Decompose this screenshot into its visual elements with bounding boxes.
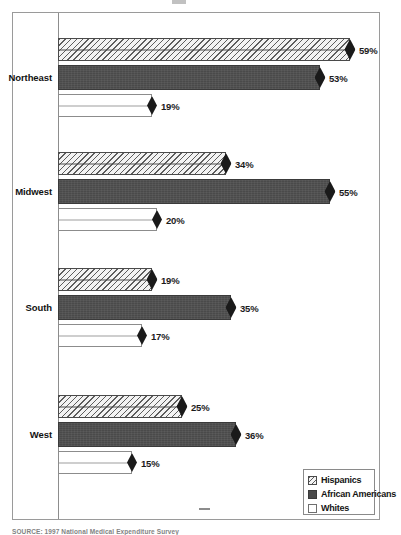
bar-row: 17% <box>58 324 222 347</box>
category-label-south: South <box>0 302 52 313</box>
bar-african-americans-midwest <box>58 179 330 204</box>
cropped-title-sliver <box>172 0 186 4</box>
legend-item-hispanics: Hispanics <box>308 473 371 487</box>
source-note: SOURCE: 1997 National Medical Expenditur… <box>12 528 179 535</box>
bar-value-label: 17% <box>151 330 169 341</box>
bar-whites-west <box>58 451 132 474</box>
solid-dark-swatch-icon <box>308 490 317 499</box>
bar-value-label: 35% <box>240 302 258 313</box>
bar-row: 34% <box>58 152 306 175</box>
bar-whites-northeast <box>58 94 152 117</box>
bar-hispanics-south <box>58 268 152 291</box>
bar-value-label: 25% <box>191 401 209 412</box>
legend-label: African Americans <box>321 489 396 499</box>
bar-row: 15% <box>58 451 212 474</box>
hatched-swatch-icon <box>308 476 317 485</box>
category-label-west: West <box>0 429 52 440</box>
bar-value-label: 15% <box>141 457 159 468</box>
bar-value-label: 59% <box>359 44 377 55</box>
legend-label: Hispanics <box>321 475 361 485</box>
label-gutter-rule <box>12 12 13 520</box>
bar-hispanics-midwest <box>58 152 226 175</box>
bar-row: 35% <box>58 295 311 320</box>
bar-value-label: 20% <box>166 214 184 225</box>
bar-value-label: 36% <box>245 429 263 440</box>
bar-value-label: 19% <box>161 274 179 285</box>
bar-value-label: 19% <box>161 100 179 111</box>
bar-african-americans-northeast <box>58 65 320 90</box>
bar-row: 19% <box>58 268 232 291</box>
bar-value-label: 53% <box>329 72 347 83</box>
legend-item-whites: Whites <box>308 501 371 515</box>
stray-tick-mark <box>199 508 210 510</box>
legend-item-african-americans: African Americans <box>308 487 371 501</box>
open-white-swatch-icon <box>308 504 317 513</box>
chart-legend: Hispanics African Americans Whites <box>303 469 375 515</box>
bar-row: 53% <box>58 65 400 90</box>
bar-row: 55% <box>58 179 401 204</box>
bar-row: 36% <box>58 422 316 447</box>
bar-row: 59% <box>58 38 401 61</box>
bar-row: 20% <box>58 208 237 231</box>
legend-label: Whites <box>321 503 349 513</box>
category-label-midwest: Midwest <box>0 186 52 197</box>
bar-value-label: 55% <box>339 186 357 197</box>
bar-hispanics-west <box>58 395 182 418</box>
category-label-northeast: Northeast <box>0 72 52 83</box>
bar-african-americans-west <box>58 422 236 447</box>
bar-value-label: 34% <box>235 158 253 169</box>
bar-hispanics-northeast <box>58 38 350 61</box>
bar-african-americans-south <box>58 295 231 320</box>
bar-whites-south <box>58 324 142 347</box>
bar-row: 19% <box>58 94 232 117</box>
bar-row: 25% <box>58 395 262 418</box>
bar-whites-midwest <box>58 208 157 231</box>
